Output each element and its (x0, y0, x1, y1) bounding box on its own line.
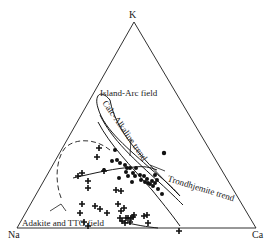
label-island-arc-field: Island-Arc field (100, 88, 158, 98)
label-adakite-ttg-field: Adakite and TTG field (22, 218, 105, 228)
ternary-diagram: K Na Ca Island-Arc field Calc-Alkaline t… (0, 0, 272, 239)
label-calc-alkaline-trend: Calc-Alkaline trend (100, 98, 149, 162)
vertex-label-na: Na (8, 229, 20, 239)
adakite-leader-line (50, 204, 66, 211)
vertex-label-k: K (129, 9, 137, 20)
vertex-label-ca: Ca (252, 229, 264, 239)
